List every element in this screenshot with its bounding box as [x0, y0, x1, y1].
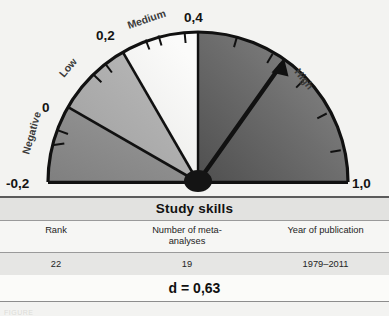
table-title: Study skills — [156, 201, 233, 216]
cell-rank: 22 — [0, 259, 112, 269]
figure-root: -0,2 0 0,2 0,4 1,0 Negative Low Medium H… — [0, 0, 389, 316]
gauge-tick-label-min: -0,2 — [6, 176, 29, 191]
effect-size-row: d = 0,63 — [0, 275, 389, 301]
gauge-tick-label-04: 0,4 — [184, 10, 203, 25]
gauge-tick-label-max: 1,0 — [352, 176, 371, 191]
table-header-meta-line2: analyses — [112, 236, 262, 247]
table-header-meta-line1: Number of meta- — [112, 225, 262, 236]
table-header-row: Rank Number of meta- analyses Year of pu… — [0, 221, 389, 252]
caption-fragment: FIGURE — [4, 309, 389, 316]
gauge-svg: -0,2 0 0,2 0,4 1,0 Negative Low Medium H… — [0, 0, 389, 196]
table-title-band: Study skills — [0, 198, 389, 220]
cell-years: 1979–2011 — [262, 259, 389, 269]
gauge-tick-label-zero: 0 — [42, 100, 50, 115]
gauge-chart: -0,2 0 0,2 0,4 1,0 Negative Low Medium H… — [0, 0, 389, 196]
summary-table: Study skills Rank Number of meta- analys… — [0, 196, 389, 316]
gauge-tick-label-02: 0,2 — [96, 28, 115, 43]
table-header-meta-analyses: Number of meta- analyses — [112, 225, 262, 247]
table-row: 22 19 1979–2011 — [0, 253, 389, 275]
gauge-zone-label-low: Low — [56, 55, 79, 79]
gauge-zone-label-negative: Negative — [19, 110, 43, 156]
gauge-hub — [184, 170, 212, 192]
gauge-zone-label-medium: Medium — [126, 7, 167, 31]
table-header-rank-line1: Rank — [0, 225, 112, 236]
table-header-rank: Rank — [0, 225, 112, 247]
effect-size-value: d = 0,63 — [169, 280, 221, 296]
table-header-year: Year of publication — [262, 225, 389, 247]
cell-meta-analyses: 19 — [112, 259, 262, 269]
table-header-year-line1: Year of publication — [262, 225, 389, 236]
table-bottom-rule — [0, 301, 389, 302]
